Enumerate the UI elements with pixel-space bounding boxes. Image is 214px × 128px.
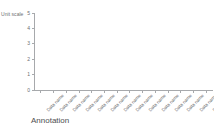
x-tick-mark	[129, 91, 130, 93]
plot-area	[34, 13, 212, 90]
x-tick-mark	[117, 91, 118, 93]
x-tick-mark	[142, 91, 143, 93]
y-tick-mark	[32, 28, 34, 29]
y-tick-label: 4	[27, 25, 30, 32]
y-tick-mark	[32, 59, 34, 60]
x-tick-mark	[79, 91, 80, 93]
y-tick: 4	[0, 25, 34, 32]
x-tick-mark	[66, 91, 67, 93]
y-tick: 2	[0, 56, 34, 63]
y-tick-mark	[32, 13, 34, 14]
y-tick: 1	[0, 71, 34, 78]
y-tick-mark	[32, 43, 34, 44]
x-tick-mark	[104, 91, 105, 93]
annotation-text: Annotation	[31, 115, 69, 126]
x-tick-mark	[53, 91, 54, 93]
x-tick-mark	[206, 91, 207, 93]
y-tick-label: 3	[27, 40, 30, 47]
y-tick-mark	[32, 74, 34, 75]
x-tick-mark	[168, 91, 169, 93]
y-tick-label: 0	[27, 87, 30, 94]
y-tick: 0	[0, 87, 34, 94]
x-tick-mark	[180, 91, 181, 93]
x-tick-mark	[91, 91, 92, 93]
y-tick: 5	[0, 10, 34, 17]
x-axis-line	[34, 90, 213, 91]
y-tick-mark	[32, 90, 34, 91]
x-tick-mark	[193, 91, 194, 93]
y-tick: 3	[0, 40, 34, 47]
y-tick-label: 2	[27, 56, 30, 63]
x-tick-mark	[155, 91, 156, 93]
y-tick-label: 1	[27, 71, 30, 78]
chart-container: Unit scale 012345 Data nameData nameData…	[0, 0, 214, 128]
y-axis-line	[34, 13, 35, 91]
x-tick-mark	[40, 91, 41, 93]
y-tick-label: 5	[27, 10, 30, 17]
